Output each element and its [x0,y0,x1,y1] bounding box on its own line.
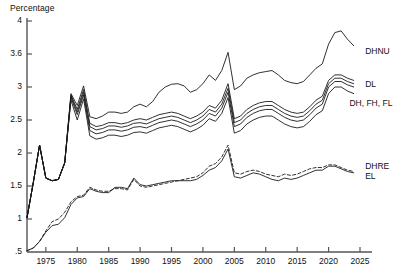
series-label-dl: DL [365,79,376,89]
x-axis-tick-label: 2000 [186,256,220,266]
y-axis-tick-label: 3.6 [2,48,22,58]
y-axis-tick-label: .5 [2,246,22,256]
y-axis-tick-label: 2.5 [2,114,22,124]
series-line-dhnu [27,31,354,218]
series-line-dh [27,78,354,217]
x-axis-tick-label: 2020 [312,256,346,266]
series-label-dhnu: DHNU [365,46,390,56]
series-line-dl [27,75,354,218]
chart-container: Percentage .511.522.533.64 1975198019851… [0,0,407,274]
series-label-dhre: DHRE [365,161,389,171]
y-axis-tick-label: 1 [2,213,22,223]
x-axis-tick-label: 1980 [60,256,94,266]
y-axis-tick-label: 4 [2,15,22,25]
series-label-el: EL [365,171,375,181]
chart-series-lines [27,31,354,251]
series-line-el [27,145,354,251]
x-axis-tick-label: 2015 [280,256,314,266]
x-axis-tick-label: 1975 [29,256,63,266]
x-axis-tick-label: 2005 [217,256,251,266]
series-label-dh-fh-fl: DH, FH, FL [349,98,392,108]
y-axis-tick-label: 1.5 [2,180,22,190]
x-axis-tick-label: 1990 [123,256,157,266]
series-line-fh [27,82,354,218]
chart-plot-area [0,0,407,274]
series-line-dhre [27,149,354,251]
x-axis-tick-label: 2025 [343,256,377,266]
y-axis-tick-label: 3 [2,81,22,91]
y-axis-tick-label: 2 [2,147,22,157]
x-axis-tick-label: 1995 [155,256,189,266]
x-axis-tick-label: 1985 [92,256,126,266]
chart-axes [27,18,372,252]
x-axis-tick-label: 2010 [249,256,283,266]
